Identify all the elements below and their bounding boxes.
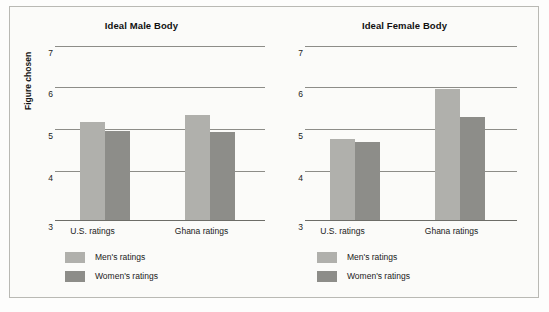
bar-ghana-women — [460, 117, 485, 220]
group-label-ghana: Ghana ratings — [159, 226, 244, 236]
legend-swatch-men-icon — [65, 252, 85, 263]
y-tick-5: 5 — [292, 131, 303, 141]
y-tick-4: 4 — [292, 173, 303, 183]
bar-us-women — [105, 131, 130, 220]
gridline-6: 6 — [305, 87, 517, 88]
panel-title: Ideal Female Body — [272, 20, 537, 31]
bar-ghana-men — [185, 115, 210, 220]
y-tick-5: 5 — [42, 131, 53, 141]
y-tick-7: 7 — [42, 48, 53, 58]
y-tick-3: 3 — [292, 222, 303, 232]
group-label-us: U.S. ratings — [305, 226, 380, 236]
y-tick-6: 6 — [292, 89, 303, 99]
legend-swatch-women-icon — [317, 271, 337, 282]
x-axis-baseline: 3 — [55, 220, 265, 221]
bar-us-women — [355, 142, 380, 220]
bar-us-men — [330, 139, 355, 220]
gridline-5: 5 — [305, 129, 517, 130]
bar-ghana-men — [435, 89, 460, 220]
legend-label-women: Women's ratings — [95, 271, 158, 281]
legend-swatch-men-icon — [317, 252, 337, 263]
legend-item-men: Men's ratings — [317, 249, 410, 265]
legend-item-women: Women's ratings — [65, 268, 158, 284]
legend: Men's ratings Women's ratings — [65, 249, 158, 287]
group-label-us: U.S. ratings — [55, 226, 130, 236]
group-label-ghana: Ghana ratings — [409, 226, 494, 236]
x-axis-baseline: 3 — [305, 220, 517, 221]
panel-ideal-male-body: Ideal Male Body Figure chosen 7 6 5 4 3 — [9, 6, 274, 298]
y-tick-7: 7 — [292, 48, 303, 58]
bar-ghana-women — [210, 132, 235, 220]
legend-item-men: Men's ratings — [65, 249, 158, 265]
legend: Men's ratings Women's ratings — [317, 249, 410, 287]
legend-item-women: Women's ratings — [317, 268, 410, 284]
bar-us-men — [80, 122, 105, 220]
panel-title: Ideal Male Body — [9, 20, 274, 31]
legend-label-women: Women's ratings — [347, 271, 410, 281]
y-tick-3: 3 — [42, 222, 53, 232]
gridline-7: 7 — [55, 46, 265, 47]
plot-area: 7 6 5 4 3 — [305, 46, 517, 221]
legend-label-men: Men's ratings — [347, 252, 397, 262]
panel-ideal-female-body: Ideal Female Body 7 6 5 4 3 U. — [272, 6, 537, 298]
y-axis-label: Figure chosen — [23, 52, 33, 110]
legend-label-men: Men's ratings — [95, 252, 145, 262]
plot-area: 7 6 5 4 3 — [55, 46, 265, 221]
y-tick-4: 4 — [42, 173, 53, 183]
figure-container: Ideal Male Body Figure chosen 7 6 5 4 3 — [0, 0, 549, 312]
legend-swatch-women-icon — [65, 271, 85, 282]
y-tick-6: 6 — [42, 89, 53, 99]
gridline-6: 6 — [55, 87, 265, 88]
gridline-7: 7 — [305, 46, 517, 47]
